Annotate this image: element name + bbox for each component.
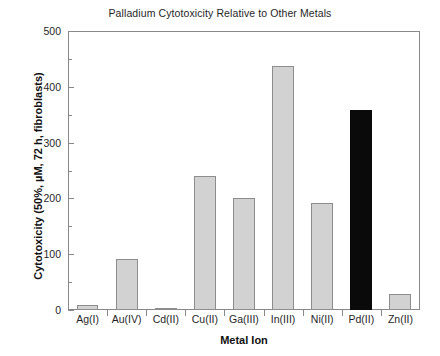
y-axis-minor-tick — [68, 171, 72, 172]
x-axis-title: Metal Ion — [68, 334, 420, 346]
y-axis-minor-tick — [68, 226, 72, 227]
bar-auiv — [116, 259, 138, 310]
y-axis-tick-label: 100 — [17, 248, 61, 260]
y-axis-tick-label: 200 — [17, 192, 61, 204]
y-axis-tick-label: 300 — [17, 137, 61, 149]
x-axis-tick — [264, 310, 265, 316]
x-axis-tick-label: Cd(II) — [153, 313, 179, 325]
y-axis-minor-tick — [68, 115, 72, 116]
x-axis-tick — [381, 310, 382, 316]
x-axis-tick-label: Au(IV) — [112, 313, 142, 325]
x-axis-tick-label: Cu(II) — [192, 313, 218, 325]
x-axis-tick — [303, 310, 304, 316]
chart-title: Palladium Cytotoxicity Relative to Other… — [0, 7, 440, 19]
y-axis-tick — [68, 31, 74, 32]
bar-niii — [311, 203, 333, 310]
x-axis-tick-label: Ag(I) — [76, 313, 99, 325]
bar-pdii — [350, 110, 372, 310]
x-axis-tick-label: Ga(III) — [229, 313, 259, 325]
bar-iniii — [272, 66, 294, 310]
y-axis-minor-tick — [68, 282, 72, 283]
bar-cuii — [194, 176, 216, 310]
y-axis-tick — [68, 310, 74, 311]
bar-znii — [389, 294, 411, 310]
x-axis-tick-label: Ni(II) — [311, 313, 334, 325]
x-axis-tick — [185, 310, 186, 316]
bar-agi — [77, 305, 99, 310]
bar-gaiii — [233, 198, 255, 310]
x-axis-tick-label: In(III) — [271, 313, 296, 325]
x-axis-tick-label: Zn(II) — [388, 313, 413, 325]
y-axis-tick-label: 0 — [17, 304, 61, 316]
chart-figure: Palladium Cytotoxicity Relative to Other… — [0, 0, 440, 356]
y-axis-tick-label: 500 — [17, 25, 61, 37]
y-axis-title: Cytotoxicity (50%, µM, 72 h, fibroblasts… — [32, 31, 44, 321]
y-axis-minor-tick — [68, 59, 72, 60]
y-axis-tick — [68, 143, 74, 144]
x-axis-tick — [146, 310, 147, 316]
y-axis-tick — [68, 254, 74, 255]
y-axis-tick — [68, 198, 74, 199]
y-axis-tick-label: 400 — [17, 81, 61, 93]
y-axis-tick — [68, 87, 74, 88]
x-axis-tick — [342, 310, 343, 316]
x-axis-tick — [107, 310, 108, 316]
x-axis-tick — [224, 310, 225, 316]
bar-cdii — [155, 308, 177, 310]
x-axis-tick-label: Pd(II) — [348, 313, 374, 325]
